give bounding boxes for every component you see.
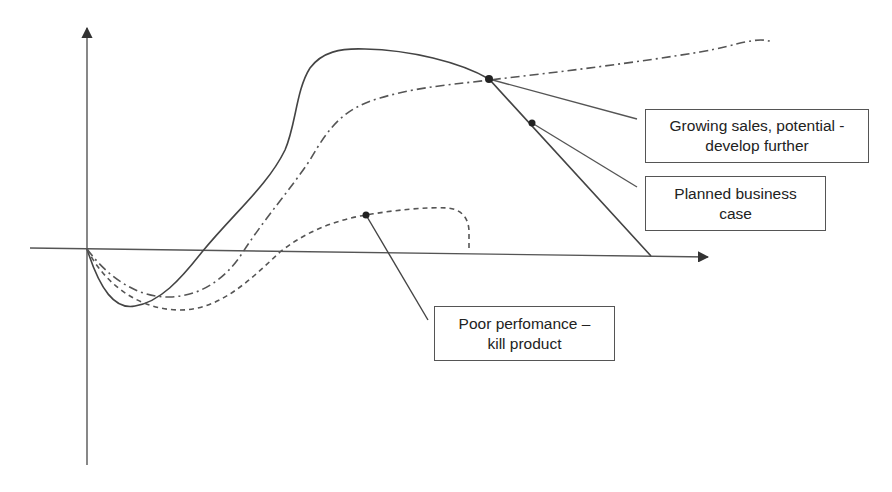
lifecycle-diagram [0,0,892,492]
leader-line-growing-sales [489,79,637,119]
callout-growing-sales: Growing sales, potential - develop furth… [645,109,869,163]
x-axis [30,248,708,257]
callout-poor-performance-line2: kill product [487,334,561,354]
decision-point-planned-case [529,120,536,127]
callout-planned-case-line2: case [719,204,752,224]
leader-line-poor-performance [366,215,428,320]
callout-poor-performance-line1: Poor perfomance – [459,314,591,334]
callout-growing-sales-line2: develop further [705,136,808,156]
poor-performance-curve [87,208,469,310]
callout-growing-sales-line1: Growing sales, potential - [670,116,845,136]
decision-point-growing-sales [485,75,493,83]
callout-poor-performance: Poor perfomance – kill product [434,306,615,361]
leader-line-planned-case [532,123,637,187]
callout-planned-case-line1: Planned business [674,184,796,204]
planned-business-case-curve [87,40,773,297]
callout-planned-case: Planned business case [645,176,826,231]
develop-further-curve [87,49,651,307]
decision-point-poor-performance [363,212,370,219]
